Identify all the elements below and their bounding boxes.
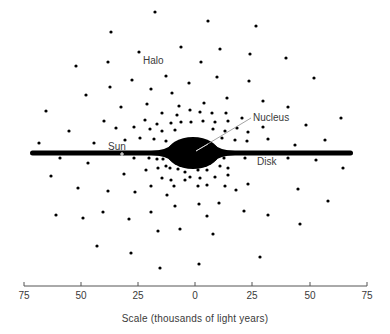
- halo-star: [215, 75, 218, 78]
- scale-tick-label: 75: [361, 291, 372, 301]
- halo-star: [223, 129, 226, 132]
- halo-star: [132, 125, 135, 128]
- halo-star: [304, 123, 307, 126]
- halo-star: [323, 138, 326, 141]
- halo-star: [245, 139, 248, 142]
- halo-star: [148, 127, 151, 130]
- halo-star: [109, 30, 112, 33]
- halo-star: [188, 175, 191, 178]
- halo-star: [205, 214, 208, 217]
- halo-star: [164, 74, 167, 77]
- halo-star: [178, 227, 181, 230]
- halo-star: [156, 229, 159, 232]
- halo-star: [155, 157, 158, 160]
- halo-star: [248, 52, 251, 55]
- halo-star: [153, 10, 156, 13]
- halo-star: [240, 116, 243, 119]
- halo-star: [266, 213, 269, 216]
- halo-star: [149, 87, 152, 90]
- halo-star: [173, 128, 176, 131]
- scale-bar: [24, 282, 367, 286]
- scale-tick-label: 50: [304, 291, 315, 301]
- halo-star: [175, 113, 178, 116]
- halo-star: [197, 262, 200, 265]
- halo-star: [261, 125, 264, 128]
- disk-label: Disk: [257, 157, 276, 167]
- halo-star: [222, 156, 225, 159]
- halo-star: [286, 105, 289, 108]
- halo-star: [223, 184, 226, 187]
- halo-star: [206, 19, 209, 22]
- galaxy-diagram: [0, 0, 390, 334]
- halo-star: [226, 166, 229, 169]
- halo-star: [74, 64, 77, 67]
- halo-star: [341, 166, 344, 169]
- halo-star: [149, 184, 152, 187]
- halo-star: [170, 91, 173, 94]
- halo-star: [261, 99, 264, 102]
- halo-star: [138, 136, 141, 139]
- halo-star: [339, 116, 342, 119]
- halo-star: [210, 111, 213, 114]
- halo-star: [188, 108, 191, 111]
- halo-star: [189, 120, 192, 123]
- halo-star: [246, 130, 249, 133]
- halo-star: [114, 126, 117, 129]
- halo-star: [247, 79, 250, 82]
- halo-star: [58, 156, 61, 159]
- halo-star: [158, 266, 161, 269]
- halo-star: [179, 45, 182, 48]
- halo-star: [298, 222, 301, 225]
- halo-star: [293, 143, 296, 146]
- halo-star: [54, 213, 57, 216]
- halo-star: [173, 204, 176, 207]
- halo-star: [233, 138, 236, 141]
- halo-star: [164, 139, 167, 142]
- halo-star: [127, 217, 130, 220]
- halo-star: [122, 172, 125, 175]
- halo-star: [160, 111, 163, 114]
- halo-star: [130, 78, 133, 81]
- halo-star: [242, 209, 245, 212]
- halo-star: [254, 24, 257, 27]
- halo-star: [49, 174, 52, 177]
- halo-star: [284, 56, 287, 59]
- halo-star: [160, 176, 163, 179]
- halo-star: [137, 50, 140, 53]
- scale-tick-label: 25: [246, 291, 257, 301]
- halo-star: [220, 136, 223, 139]
- halo-star: [156, 166, 159, 169]
- halo-star: [198, 176, 201, 179]
- halo-star: [176, 167, 179, 170]
- halo-star: [218, 164, 221, 167]
- scale-tick-label: 75: [18, 291, 29, 301]
- halo-star: [92, 141, 95, 144]
- scale-tick-label: 50: [75, 291, 86, 301]
- halo-star: [211, 127, 214, 130]
- nucleus-label: Nucleus: [253, 113, 289, 123]
- halo-label: Halo: [143, 56, 164, 66]
- halo-star: [108, 85, 111, 88]
- scale-tick-label: 0: [192, 291, 198, 301]
- halo-star: [199, 60, 202, 63]
- halo-star: [161, 157, 164, 160]
- halo-star: [165, 193, 168, 196]
- halo-star: [183, 178, 186, 181]
- halo-star: [266, 137, 269, 140]
- halo-star: [234, 188, 237, 191]
- halo-star: [145, 102, 148, 105]
- halo-star: [84, 93, 87, 96]
- halo-star: [101, 210, 104, 213]
- halo-star: [155, 122, 158, 125]
- halo-star: [179, 120, 182, 123]
- halo-star: [217, 201, 220, 204]
- halo-star: [183, 170, 186, 173]
- halo-star: [196, 168, 199, 171]
- halo-star: [119, 105, 122, 108]
- halo-star: [225, 96, 228, 99]
- halo-star: [160, 129, 163, 132]
- halo-star: [106, 189, 109, 192]
- halo-star: [187, 81, 190, 84]
- halo-star: [243, 156, 246, 159]
- halo-star: [205, 183, 208, 186]
